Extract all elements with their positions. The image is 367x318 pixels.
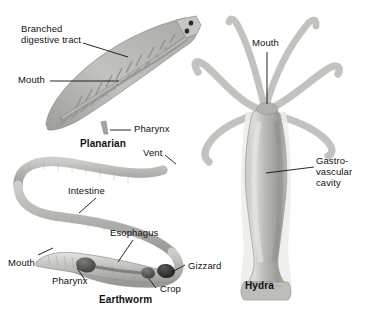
planarian-species-label: Planarian xyxy=(80,139,126,150)
earthworm-pharynx-label: Pharynx xyxy=(52,276,88,287)
figure-illustration xyxy=(0,0,367,318)
planarian-mouth-label: Mouth xyxy=(18,75,45,86)
hydra-cavity-label-line3: cavity xyxy=(316,178,341,189)
earthworm-mouth-label: Mouth xyxy=(8,258,35,269)
earthworm-vent-label: Vent xyxy=(143,148,162,159)
planarian-pharynx-label: Pharynx xyxy=(134,124,170,135)
earthworm-species-label: Earthworm xyxy=(99,295,152,306)
earthworm-gizzard-label: Gizzard xyxy=(188,261,221,272)
hydra-mouth-label: Mouth xyxy=(252,38,279,49)
planarian-pharynx-tube xyxy=(101,121,108,134)
hydra-cavity-label-line1: Gastro- xyxy=(316,156,348,167)
planarian-branched-tract-label-line2: digestive tract xyxy=(21,35,81,46)
hydra-species-label: Hydra xyxy=(245,281,274,292)
hydra-cavity-label-line2: vascular xyxy=(316,167,352,178)
planarian-eyespot-right xyxy=(185,28,190,33)
earthworm-esophagus-label: Esophagus xyxy=(110,228,158,239)
planarian-branched-tract-label-line1: Branched xyxy=(21,24,62,35)
planarian-eyespot-left xyxy=(189,20,194,25)
digestive-systems-figure: Branched digestive tract Mouth Pharynx P… xyxy=(0,0,367,318)
earthworm-crop-label: Crop xyxy=(160,284,181,295)
earthworm-intestine-label: Intestine xyxy=(68,186,105,197)
earthworm-illustration xyxy=(18,161,179,289)
